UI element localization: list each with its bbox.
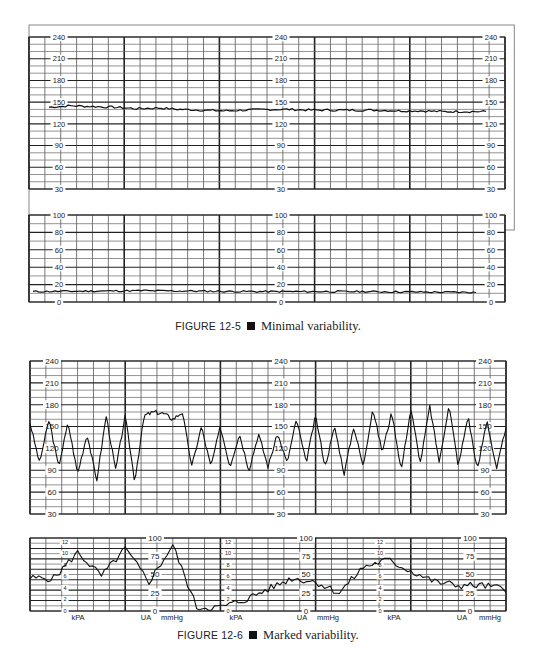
svg-text:30: 30 [48,510,57,519]
svg-text:80: 80 [55,228,63,237]
svg-text:6: 6 [63,573,66,579]
svg-text:180: 180 [274,401,288,410]
svg-text:120: 120 [53,120,66,129]
svg-text:2: 2 [378,596,381,602]
svg-text:0: 0 [378,608,381,614]
svg-text:20: 20 [55,280,63,289]
svg-text:6: 6 [378,573,381,579]
svg-text:6: 6 [226,573,229,579]
svg-text:180: 180 [275,76,288,85]
svg-text:2: 2 [226,596,229,602]
svg-text:120: 120 [485,120,498,129]
svg-text:10: 10 [62,550,68,556]
svg-text:0: 0 [153,607,158,616]
svg-text:60: 60 [55,163,63,172]
svg-text:120: 120 [45,444,59,453]
svg-text:30: 30 [487,185,495,194]
svg-text:240: 240 [478,357,492,366]
svg-text:150: 150 [53,98,66,107]
svg-text:60: 60 [55,246,63,255]
svg-text:60: 60 [277,488,286,497]
fetal-monitor-strips: 2402402402102102101801801801501501501201… [0,0,536,671]
svg-text:UA: UA [297,613,307,622]
svg-text:0: 0 [63,608,66,614]
svg-text:210: 210 [274,379,288,388]
svg-text:0: 0 [489,298,493,307]
svg-text:180: 180 [53,76,66,85]
svg-text:75: 75 [151,552,160,561]
svg-text:mmHg: mmHg [161,613,183,622]
svg-text:UA: UA [457,613,467,622]
figure-caption-text: Minimal variability. [261,319,361,333]
svg-text:150: 150 [485,98,498,107]
svg-text:40: 40 [277,263,285,272]
svg-text:75: 75 [302,552,311,561]
svg-text:75: 75 [466,552,475,561]
svg-text:100: 100 [485,211,498,220]
svg-text:4: 4 [226,585,229,591]
svg-text:mmHg: mmHg [479,613,501,622]
svg-text:25: 25 [466,589,475,598]
svg-text:12: 12 [377,539,383,545]
figure-12-5-chart: 2402402402102102101801801801501501501201… [29,25,514,307]
svg-text:90: 90 [277,141,285,150]
figure-12-6-caption: FIGURE 12-6Marked variability. [0,628,536,643]
svg-text:8: 8 [226,562,229,568]
svg-text:100: 100 [148,534,162,543]
svg-text:30: 30 [55,185,63,194]
svg-text:90: 90 [48,466,57,475]
figure-caption-text: Marked variability. [263,628,359,642]
svg-text:120: 120 [275,120,288,129]
figure-label: FIGURE 12-6 [177,629,243,641]
svg-text:0: 0 [279,298,283,307]
figure-label: FIGURE 12-5 [175,320,241,332]
svg-text:30: 30 [277,185,285,194]
svg-text:180: 180 [45,401,59,410]
svg-text:100: 100 [299,534,313,543]
svg-text:210: 210 [478,379,492,388]
square-bullet-icon [247,322,255,330]
svg-text:20: 20 [487,280,495,289]
svg-text:mmHg: mmHg [317,613,339,622]
svg-text:40: 40 [487,263,495,272]
svg-text:10: 10 [225,550,231,556]
svg-text:210: 210 [275,54,288,63]
svg-text:30: 30 [481,510,490,519]
svg-text:4: 4 [63,585,66,591]
svg-text:210: 210 [45,379,59,388]
svg-text:50: 50 [466,570,475,579]
svg-text:180: 180 [485,76,498,85]
svg-text:60: 60 [48,488,57,497]
svg-text:80: 80 [277,228,285,237]
svg-text:30: 30 [277,510,286,519]
svg-text:180: 180 [478,401,492,410]
svg-text:4: 4 [378,585,381,591]
svg-text:60: 60 [277,163,285,172]
svg-text:60: 60 [487,246,495,255]
svg-text:150: 150 [274,422,288,431]
svg-text:60: 60 [487,163,495,172]
svg-text:0: 0 [468,607,473,616]
svg-text:12: 12 [225,539,231,545]
svg-text:40: 40 [55,263,63,272]
svg-text:240: 240 [45,357,59,366]
svg-text:100: 100 [53,211,66,220]
svg-text:60: 60 [481,488,490,497]
svg-text:90: 90 [481,466,490,475]
svg-text:210: 210 [485,54,498,63]
svg-text:90: 90 [55,141,63,150]
svg-text:10: 10 [377,550,383,556]
svg-text:60: 60 [277,246,285,255]
svg-text:240: 240 [274,357,288,366]
svg-text:20: 20 [277,280,285,289]
svg-text:90: 90 [487,141,495,150]
svg-text:12: 12 [62,539,68,545]
svg-text:kPA: kPA [229,613,242,622]
svg-text:240: 240 [275,33,288,42]
svg-text:240: 240 [485,33,498,42]
svg-text:25: 25 [302,589,311,598]
svg-text:UA: UA [141,613,151,622]
svg-text:0: 0 [57,298,61,307]
svg-text:240: 240 [53,33,66,42]
svg-text:50: 50 [302,570,311,579]
